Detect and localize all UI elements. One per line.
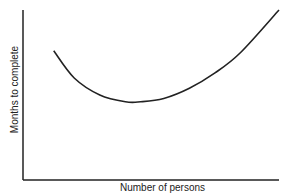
chart: Months to complete Number of persons bbox=[0, 0, 288, 195]
x-axis-label: Number of persons bbox=[120, 182, 205, 193]
data-curve bbox=[54, 10, 279, 102]
y-axis-label: Months to complete bbox=[9, 40, 20, 140]
chart-canvas bbox=[0, 0, 288, 195]
